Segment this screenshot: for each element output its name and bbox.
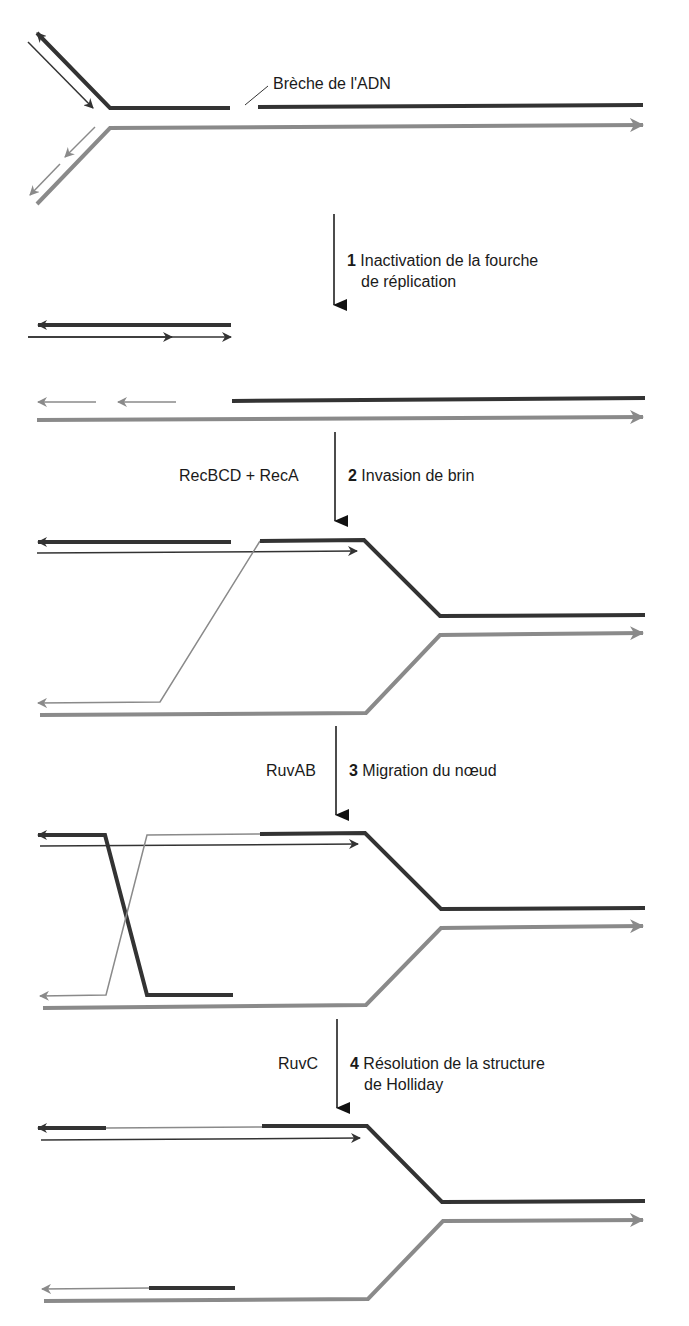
step-3-enzyme: RuvAB	[266, 760, 316, 781]
intact-grey-strand	[37, 417, 643, 420]
resolved-dark-strand	[262, 1126, 645, 1202]
diagram-canvas	[0, 0, 689, 1326]
break-label: Brèche de l'ADN	[273, 73, 391, 94]
crossing-grey-strand	[40, 834, 260, 996]
step-2-number: 2	[348, 467, 357, 484]
step-3-label: 3 Migration du nœud	[349, 760, 497, 781]
displaced-grey-strand	[38, 541, 260, 703]
panel-branch-migration	[38, 833, 645, 1008]
step-4-number: 4	[350, 1055, 359, 1072]
resolved-grey-connector	[106, 1127, 262, 1128]
step-4-label: 4 Résolution de la structure de Holliday	[350, 1053, 545, 1095]
panel-replication-fork	[28, 33, 643, 204]
step-3-title: Migration du nœud	[362, 762, 496, 779]
intact-dark-strand	[232, 398, 645, 401]
new-strand-extended	[40, 844, 358, 846]
step-2-enzyme: RecBCD + RecA	[179, 465, 299, 486]
break-pointer-line	[245, 86, 268, 105]
panel-holliday-resolution	[38, 1126, 645, 1301]
panel-strand-invasion	[37, 540, 645, 715]
step-1-label: 1 Inactivation de la fourche de réplicat…	[347, 250, 538, 292]
step-1-number: 1	[347, 252, 356, 269]
step-1-title-line2: de réplication	[347, 271, 538, 292]
step-4-enzyme: RuvC	[278, 1053, 318, 1074]
resolved-new-strand	[41, 1138, 360, 1140]
invading-new-strand	[37, 551, 357, 553]
okazaki-fragment-2	[30, 164, 60, 195]
okazaki-fragment-1	[65, 127, 95, 157]
crossing-dark-strand	[38, 835, 233, 995]
panel-collapsed-fork	[28, 325, 645, 420]
step-2-title: Invasion de brin	[361, 467, 474, 484]
grey-parental-strand	[37, 125, 643, 204]
new-strand-top	[28, 42, 93, 108]
dark-parental-strand-after-break	[258, 105, 643, 107]
resolved-lower-thin	[42, 1288, 150, 1289]
step-4-title-line2: de Holliday	[350, 1074, 545, 1095]
step-3-number: 3	[349, 762, 358, 779]
dark-parental-strand	[37, 33, 230, 108]
step-4-title: Résolution de la structure	[363, 1055, 544, 1072]
step-1-title: Inactivation de la fourche	[360, 252, 538, 269]
step-2-label: 2 Invasion de brin	[348, 465, 474, 486]
